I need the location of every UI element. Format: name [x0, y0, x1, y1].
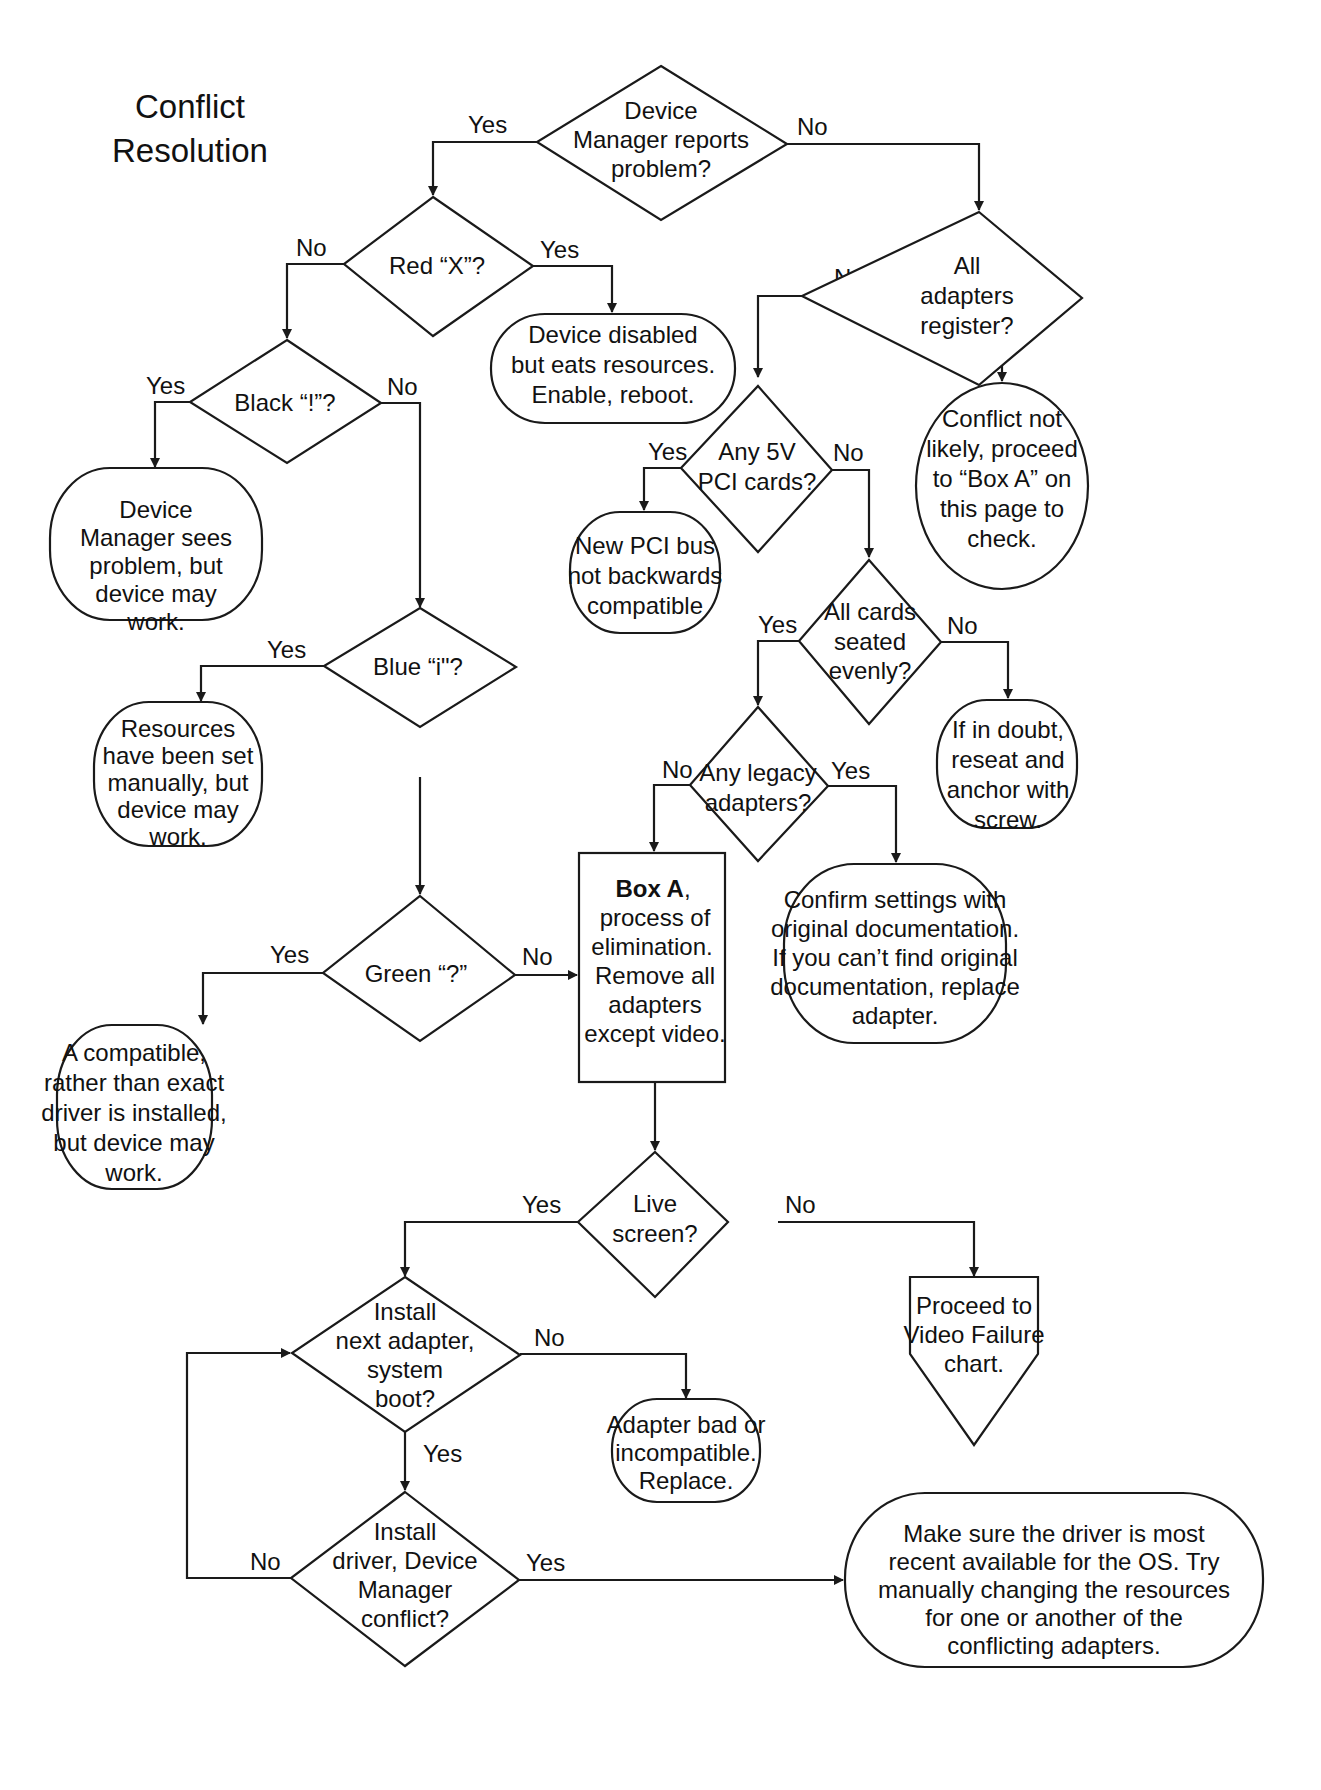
terminal-dm-sees-problem: Device Manager sees problem, but device … [50, 468, 262, 635]
label-legacy-yes: Yes [831, 757, 870, 784]
edge-driver-no [187, 1353, 291, 1578]
label-next-yes: Yes [423, 1440, 462, 1467]
node-text: adapters [920, 282, 1013, 309]
terminal-device-disabled: Device disabled but eats resources. Enab… [491, 314, 735, 423]
node-text: conflict? [361, 1605, 449, 1632]
edge-blue-yes [201, 666, 324, 701]
edge-legacy-no [654, 785, 690, 851]
node-text: New PCI bus [575, 532, 715, 559]
node-text: for one or another of the [925, 1604, 1183, 1631]
box-a-comma: , [684, 875, 691, 902]
node-text: register? [920, 312, 1013, 339]
label-dm-no: No [797, 113, 828, 140]
node-text: work. [148, 823, 206, 850]
node-text: original documentation. [771, 915, 1019, 942]
node-text: Green “?” [365, 960, 468, 987]
node-text: Manager [358, 1576, 453, 1603]
edge-register-no [758, 296, 802, 377]
label-seated-no: No [947, 612, 978, 639]
edge-black-yes [155, 402, 190, 467]
flowchart-canvas: Conflict Resolution [0, 0, 1321, 1790]
node-text: this page to [940, 495, 1064, 522]
label-seated-yes: Yes [758, 611, 797, 638]
node-text: work. [104, 1159, 162, 1186]
node-text: seated [834, 628, 906, 655]
node-text: adapters [608, 991, 701, 1018]
node-text: Replace. [639, 1467, 734, 1494]
edge-next-no [520, 1354, 686, 1398]
node-text: Enable, reboot. [532, 381, 695, 408]
label-live-no: No [785, 1191, 816, 1218]
edge-legacy-yes [828, 786, 896, 862]
node-text: next adapter, [336, 1327, 475, 1354]
decision-green-q: Green “?” [323, 896, 515, 1041]
node-text: recent available for the OS. Try [889, 1548, 1220, 1575]
decision-install-next: Install next adapter, system boot? [292, 1277, 520, 1432]
decision-cards-seated: All cards seated evenly? [799, 560, 941, 724]
edge-live-yes [405, 1222, 578, 1276]
node-text: driver, Device [332, 1547, 477, 1574]
node-text: adapter. [852, 1002, 939, 1029]
node-text: Black “!”? [234, 389, 335, 416]
node-text: device may [117, 796, 238, 823]
decision-red-x: Red “X”? [344, 197, 533, 336]
terminal-resources-manual: Resources have been set manually, but de… [94, 702, 262, 850]
node-text: boot? [375, 1385, 435, 1412]
node-text: except video. [584, 1020, 725, 1047]
node-text: but device may [53, 1129, 214, 1156]
edge-redx-no [287, 264, 344, 338]
label-driver-no: No [250, 1548, 281, 1575]
node-text: All cards [824, 598, 916, 625]
edge-green-yes [203, 973, 323, 1024]
box-a-heading: Box A, [615, 875, 690, 902]
node-text: compatible [587, 592, 703, 619]
offpage-video-failure: Proceed to Video Failure chart. [904, 1277, 1045, 1445]
terminal-make-sure-driver: Make sure the driver is most recent avai… [845, 1493, 1263, 1667]
label-pci-no: No [833, 439, 864, 466]
node-text: anchor with [947, 776, 1070, 803]
label-redx-yes: Yes [540, 236, 579, 263]
node-text: work. [126, 608, 184, 635]
label-green-no: No [522, 943, 553, 970]
label-legacy-no: No [662, 756, 693, 783]
label-driver-yes: Yes [526, 1549, 565, 1576]
node-text: Live [633, 1190, 677, 1217]
node-text: device may [95, 580, 216, 607]
node-text: rather than exact [44, 1069, 224, 1096]
decision-legacy-adapters: Any legacy adapters? [690, 707, 828, 861]
node-text: documentation, replace [770, 973, 1020, 1000]
decision-all-adapters-register: All adapters register? [802, 212, 1082, 385]
decision-blue-i: Blue “i"? [324, 608, 516, 727]
chart-title: Conflict Resolution [112, 88, 268, 169]
node-text: Any legacy [699, 759, 816, 786]
node-text: Install [374, 1518, 437, 1545]
edge-redx-yes [533, 266, 612, 312]
terminal-adapter-bad: Adapter bad or incompatible. Replace. [607, 1399, 766, 1502]
label-live-yes: Yes [522, 1191, 561, 1218]
label-pci-yes: Yes [648, 438, 687, 465]
node-text: elimination. [591, 933, 712, 960]
node-text: Manager reports [573, 126, 749, 153]
title-line-1: Conflict [135, 88, 245, 125]
node-text: incompatible. [615, 1439, 756, 1466]
terminal-reseat: If in doubt, reseat and anchor with scre… [937, 700, 1077, 833]
node-text: reseat and [951, 746, 1064, 773]
node-text: to “Box A” on [933, 465, 1072, 492]
label-black-no: No [387, 373, 418, 400]
decision-live-screen: Live screen? [578, 1152, 728, 1297]
process-box-a: Box A, process of elimination. Remove al… [579, 853, 726, 1082]
edge-seated-yes [758, 641, 799, 705]
decision-install-driver: Install driver, Device Manager conflict? [291, 1492, 519, 1666]
terminal-compatible-driver: A compatible, rather than exact driver i… [41, 1025, 226, 1189]
node-text: Proceed to [916, 1292, 1032, 1319]
edge-pci-yes [644, 468, 681, 510]
node-text: likely, proceed [926, 435, 1078, 462]
terminal-confirm-settings: Confirm settings with original documenta… [770, 864, 1020, 1043]
node-text: driver is installed, [41, 1099, 226, 1126]
edge-live-no [778, 1222, 974, 1276]
node-text: manually changing the resources [878, 1576, 1230, 1603]
node-text: Red “X”? [389, 252, 485, 279]
node-text: All [954, 252, 981, 279]
node-text: check. [967, 525, 1036, 552]
node-text: Resources [121, 715, 236, 742]
